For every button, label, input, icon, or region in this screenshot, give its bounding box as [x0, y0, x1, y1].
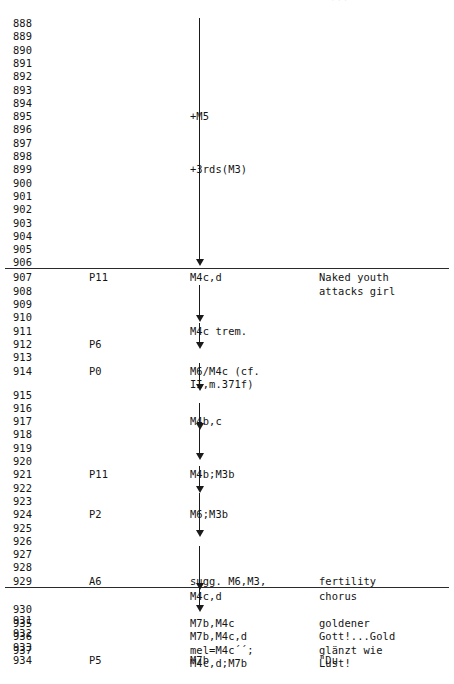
process-label: P6 [89, 338, 102, 351]
table-row: 922 [0, 482, 454, 495]
description-text: goldener [319, 617, 370, 630]
measure-number: 913 [13, 351, 32, 364]
measure-number: 899 [13, 163, 32, 176]
measure-number: 924 [13, 508, 32, 521]
measure-number: 893 [13, 84, 32, 97]
measure-number: 902 [13, 203, 32, 216]
table-row: 900 [0, 177, 454, 190]
table-row: 896 [0, 123, 454, 136]
table-row: 897 [0, 137, 454, 150]
table-row: 909 [0, 298, 454, 311]
measure-number: 936 [13, 630, 32, 643]
table-row: 891 [0, 57, 454, 70]
table-row: 902 [0, 203, 454, 216]
motive-label: M4c,d;M7b [190, 657, 247, 670]
table-row: 917M4b,c [0, 415, 454, 428]
table-row: 898 [0, 150, 454, 163]
measure-number: 905 [13, 243, 32, 256]
process-label: P0 [89, 365, 102, 378]
table-row: 907P11M4c,dNaked youth [0, 271, 454, 284]
process-label: P11 [89, 468, 108, 481]
measure-number: 925 [13, 522, 32, 535]
measure-number: 910 [13, 311, 32, 324]
measure-number: 911 [13, 325, 32, 338]
table-row: 919 [0, 442, 454, 455]
table-row: M4c,d;M7bLust! [0, 657, 454, 670]
motive-label: M4b;M3b [190, 468, 235, 481]
motive-label: M6/M4c (cf. [190, 365, 260, 378]
measure-number: 917 [13, 415, 32, 428]
measure-number: 895 [13, 110, 32, 123]
measure-number: 937 [13, 644, 32, 657]
table-row: 924P2M6;M3b [0, 508, 454, 521]
table-row: 928 [0, 561, 454, 574]
table-row: 926 [0, 535, 454, 548]
table-row: 936M7b,M4c,dGott!...Gold [0, 630, 454, 643]
description-text: chorus [319, 590, 357, 603]
measure-number: 904 [13, 230, 32, 243]
description-text: Gott!...Gold [319, 630, 395, 643]
measure-number: 935 [13, 617, 32, 630]
table-row: 894 [0, 97, 454, 110]
measure-number: 907 [13, 271, 32, 284]
table-row: 911M4c trem. [0, 325, 454, 338]
measure-number: 898 [13, 150, 32, 163]
measure-number: 916 [13, 402, 32, 415]
measure-number: 926 [13, 535, 32, 548]
measure-number: 894 [13, 97, 32, 110]
measure-number: 928 [13, 561, 32, 574]
measure-number: 908 [13, 285, 32, 298]
measure-number: 889 [13, 30, 32, 43]
measure-number: 912 [13, 338, 32, 351]
motive-label: M6;M3b [190, 508, 228, 521]
table-row: 915 [0, 389, 454, 402]
measure-number: 929 [13, 575, 32, 588]
table-row: 889 [0, 30, 454, 43]
motive-label: +M5 [190, 110, 209, 123]
measure-number: 923 [13, 495, 32, 508]
description-text: Lust! [319, 657, 351, 670]
process-label: P2 [89, 508, 102, 521]
table-row: 916 [0, 402, 454, 415]
motive-label: M7b,M4c [190, 617, 235, 630]
measure-number: 909 [13, 298, 32, 311]
table-row: 937mel=M4c´´;glänzt wie [0, 644, 454, 657]
table-row: 893 [0, 84, 454, 97]
table-row: 908attacks girl [0, 285, 454, 298]
table-row: 904 [0, 230, 454, 243]
table-row: 921P11M4b;M3b [0, 468, 454, 481]
table-row: 903 [0, 217, 454, 230]
measure-number: 896 [13, 123, 32, 136]
motive-label: M4c,d [190, 590, 222, 603]
table-row: 888 [0, 17, 454, 30]
measure-number: 927 [13, 548, 32, 561]
table-row: 890 [0, 44, 454, 57]
table-row: M4c,dchorus [0, 590, 454, 603]
table-row: 905 [0, 243, 454, 256]
measure-number: 890 [13, 44, 32, 57]
process-label: P11 [89, 271, 108, 284]
measure-number: 888 [13, 17, 32, 30]
table-row: 920 [0, 455, 454, 468]
motive-label: mel=M4c´´; [190, 644, 254, 657]
measure-number: 900 [13, 177, 32, 190]
table-row: 895+M5 [0, 110, 454, 123]
measure-number: 920 [13, 455, 32, 468]
motive-label: sugg. M6,M3, [190, 575, 266, 588]
measure-number: 918 [13, 428, 32, 441]
page-header-stub: ··· [330, 0, 349, 2]
measure-number: 891 [13, 57, 32, 70]
description-text: Naked youth [319, 271, 389, 284]
description-text: glänzt wie [319, 644, 383, 657]
process-label: A6 [89, 575, 102, 588]
motive-label: M4c trem. [190, 325, 247, 338]
motive-label: M4c,d [190, 271, 222, 284]
table-row: 935M7b,M4cgoldener [0, 617, 454, 630]
measure-number: 897 [13, 137, 32, 150]
motive-label: +3rds(M3) [190, 163, 247, 176]
description-text: fertility [319, 575, 376, 588]
table-row: 929A6sugg. M6,M3,fertility [0, 575, 454, 588]
table-row: 927 [0, 548, 454, 561]
measure-number: 906 [13, 256, 32, 269]
table-row: 914P0M6/M4c (cf. [0, 365, 454, 378]
